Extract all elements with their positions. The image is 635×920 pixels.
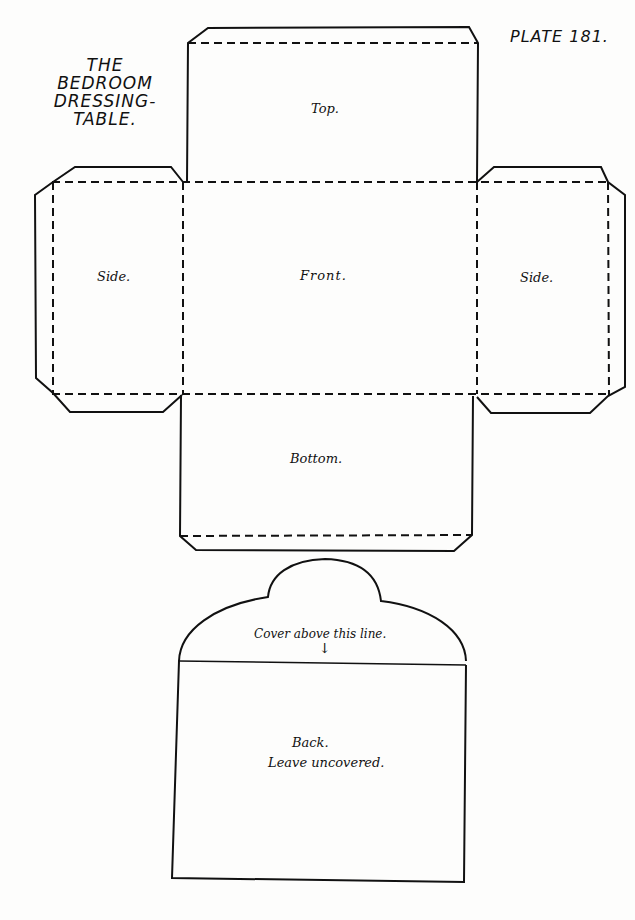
title-line-4: TABLE.: [50, 110, 160, 128]
back-panel: [172, 559, 466, 882]
back-panel-instruction: Leave uncovered.: [268, 755, 385, 770]
cover-instruction: Cover above this line.: [254, 627, 386, 641]
left-side-panel: [35, 167, 183, 412]
plate-number: PLATE 181.: [510, 27, 609, 46]
front-panel: [52, 182, 608, 394]
back-panel-label: Back.: [292, 735, 329, 750]
right-side-label: Side.: [520, 270, 553, 285]
title-line-1: THE: [50, 56, 160, 74]
top-panel-label: Top.: [311, 101, 339, 116]
left-side-label: Side.: [97, 269, 130, 284]
bottom-panel: [180, 395, 473, 551]
right-side-panel: [477, 167, 625, 413]
title-line-3: DRESSING-: [50, 92, 160, 110]
plate-title: THE BEDROOM DRESSING- TABLE.: [50, 56, 160, 128]
bottom-panel-label: Bottom.: [290, 451, 342, 466]
down-arrow-icon: ↓: [319, 640, 331, 656]
title-line-2: BEDROOM: [50, 74, 160, 92]
pattern-plate: PLATE 181. THE BEDROOM DRESSING- TABLE. …: [0, 0, 635, 920]
front-panel-label: Front.: [300, 268, 347, 283]
